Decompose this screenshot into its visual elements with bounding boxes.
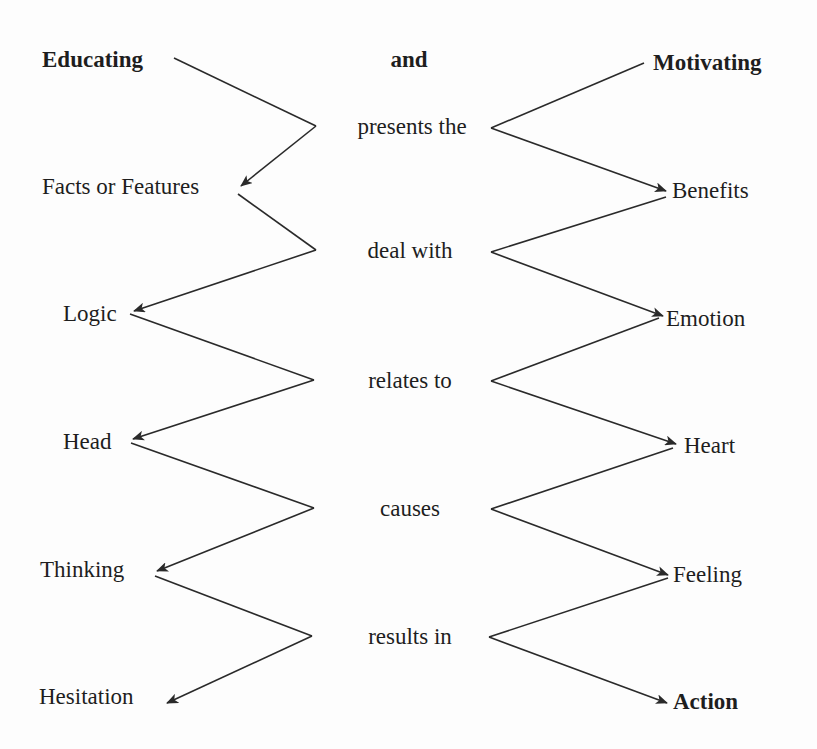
label-feeling: Feeling xyxy=(673,563,742,586)
arrow-causes-to-feeling xyxy=(491,509,668,575)
connector-educating-to-presents xyxy=(174,58,316,126)
arrow-deal-to-emotion xyxy=(491,252,663,316)
connector-emotion-to-relates xyxy=(491,318,659,381)
label-thinking: Thinking xyxy=(40,558,124,581)
label-motivating: Motivating xyxy=(653,51,762,74)
label-results-in: results in xyxy=(368,625,452,648)
connector-benefits-to-deal xyxy=(491,197,666,252)
label-head: Head xyxy=(63,430,112,453)
label-heart: Heart xyxy=(684,434,735,457)
label-logic: Logic xyxy=(63,302,117,325)
educating-vs-motivating-diagram: Educating and Motivating Facts or Featur… xyxy=(0,0,817,749)
label-and: and xyxy=(390,48,427,71)
connector-motivating-to-presents xyxy=(491,63,644,128)
arrow-relates-to-heart xyxy=(491,381,676,444)
label-relates-to: relates to xyxy=(368,369,452,392)
label-hesitation: Hesitation xyxy=(39,685,134,708)
arrow-results-to-hesitation xyxy=(167,636,312,703)
connector-feeling-to-results xyxy=(489,578,668,637)
label-deal-with: deal with xyxy=(368,239,453,262)
label-action: Action xyxy=(673,690,738,713)
label-benefits: Benefits xyxy=(672,179,749,202)
arrow-results-to-action xyxy=(489,637,667,703)
label-emotion: Emotion xyxy=(666,307,745,330)
connector-logic-to-relates xyxy=(130,314,314,380)
connector-heart-to-causes xyxy=(491,448,673,509)
arrow-presents-to-benefits xyxy=(491,128,666,191)
connector-head-to-causes xyxy=(131,443,314,508)
label-causes: causes xyxy=(380,497,440,520)
connector-facts-to-deal xyxy=(238,194,316,250)
arrow-relates-to-head xyxy=(133,380,314,439)
arrow-deal-to-logic xyxy=(134,250,316,311)
connector-thinking-to-results xyxy=(155,576,312,636)
label-facts-or-features: Facts or Features xyxy=(42,175,199,198)
arrow-causes-to-thinking xyxy=(157,508,314,571)
label-educating: Educating xyxy=(42,48,143,71)
arrow-presents-to-facts xyxy=(241,126,316,186)
label-presents-the: presents the xyxy=(357,115,466,138)
